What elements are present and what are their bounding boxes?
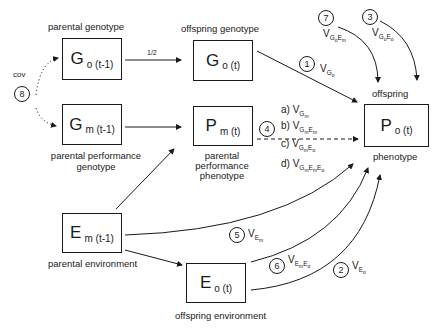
label-cov: cov: [13, 69, 25, 80]
node-pm-t-main: P: [206, 116, 217, 136]
arrow-path-6: [251, 168, 368, 262]
node-eo-t: Eo (t): [186, 263, 246, 303]
node-go-t-main: G: [206, 51, 219, 71]
cov-curve-upper: [36, 58, 58, 95]
path-number-2: 2: [333, 262, 349, 278]
node-go-t1-main: G: [71, 49, 84, 69]
path-number-4: 4: [259, 121, 275, 137]
node-gm-t1-sub: m (t-1): [85, 124, 114, 135]
label-genotype: genotype: [76, 161, 115, 172]
node-eo-t-sub: o (t): [214, 283, 232, 294]
path-number-3: 3: [362, 9, 378, 25]
path-7-variance: VGoEm: [323, 28, 346, 43]
node-go-t-sub: o (t): [222, 60, 240, 71]
node-em-t1-main: E: [70, 223, 81, 243]
node-pm-t: Pm (t): [193, 106, 253, 146]
node-em-t1: Em (t-1): [62, 213, 122, 253]
path-6-variance: VEmEo: [288, 254, 310, 269]
path-number-5: 5: [229, 227, 245, 243]
path-1-variance: VGo: [320, 63, 335, 78]
label-phenotype-pm: phenotype: [200, 170, 244, 181]
label-parental-performance: parental performance: [51, 150, 141, 161]
label-offspring: offspring: [372, 88, 408, 99]
path-number-6: 6: [269, 258, 285, 274]
path-5-variance: VEm: [248, 228, 263, 243]
path-4-option-a: a) VGm: [281, 104, 309, 119]
node-go-t1-sub: o (t-1): [87, 59, 114, 70]
node-go-t: Go (t): [193, 40, 253, 81]
node-go-t1: Go (t-1): [62, 38, 122, 80]
path-number-7: 7: [318, 10, 334, 26]
label-phenotype-po: phenotype: [373, 151, 417, 162]
node-em-t1-sub: m (t-1): [84, 233, 113, 244]
label-half: 1/2: [147, 47, 157, 58]
label-parental-genotype: parental genotype: [48, 21, 124, 32]
path-2-variance: VEo: [352, 260, 366, 275]
node-po-t-main: P: [380, 116, 391, 136]
path-number-1: 1: [299, 56, 315, 72]
path-4-option-d: d) VGmEmEo: [281, 158, 324, 173]
path-4-option-c: c) VGmEo: [281, 138, 315, 153]
node-gm-t1-main: G: [69, 115, 82, 135]
label-parental-environment: parental environment: [48, 258, 137, 269]
node-po-t-sub: o (t): [395, 125, 413, 136]
path-3-variance: VGoEo: [372, 27, 394, 42]
label-offspring-genotype: offspring genotype: [181, 23, 259, 34]
path-4-option-b: b) VGmEm: [281, 120, 317, 135]
node-gm-t1: Gm (t-1): [62, 104, 122, 145]
node-po-t: Po (t): [364, 104, 429, 147]
cov-curve-lower: [36, 108, 56, 126]
node-eo-t-main: E: [200, 273, 211, 293]
path-number-8: 8: [14, 86, 30, 102]
label-offspring-environment: offspring environment: [175, 310, 266, 321]
path-diagram: parental genotype Go (t-1) 1/2 cov 8 Gm …: [0, 0, 439, 333]
node-pm-t-sub: m (t): [220, 126, 241, 137]
